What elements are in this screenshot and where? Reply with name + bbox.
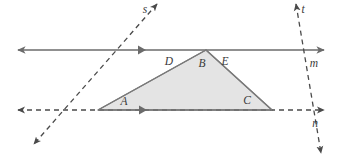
line-t (296, 4, 321, 153)
line-label-t: t (301, 3, 305, 15)
line-s (34, 4, 157, 144)
point-label-e: E (220, 55, 228, 67)
point-label-b: B (198, 57, 205, 69)
geometry-diagram-canvas: A B C D E m n s t (0, 0, 347, 165)
line-label-n: n (312, 117, 318, 129)
parallel-tick-line-m (138, 46, 146, 55)
geometry-figure: A B C D E m n s t (0, 0, 347, 165)
line-label-m: m (310, 57, 318, 69)
point-label-a: A (119, 95, 128, 107)
line-label-s: s (143, 3, 148, 15)
point-label-c: C (243, 94, 251, 106)
point-label-d: D (164, 55, 174, 67)
